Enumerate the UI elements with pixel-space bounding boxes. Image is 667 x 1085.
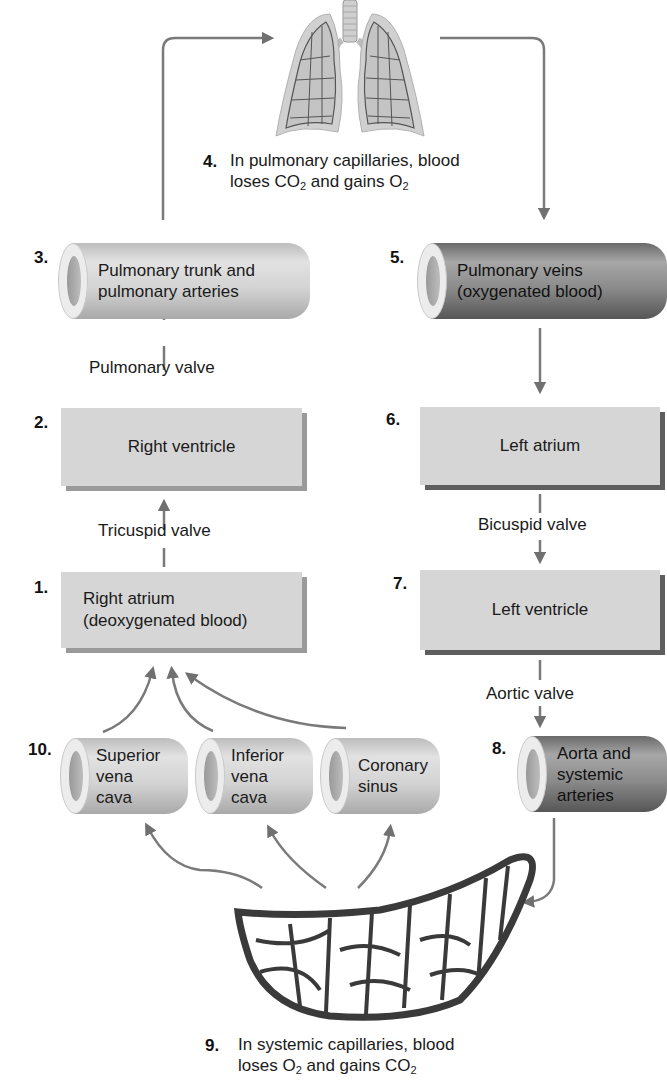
superior-vena-cava-label: Superiorvenacava — [96, 738, 160, 814]
step-6-number: 6. — [386, 410, 400, 430]
step-9-caption: In systemic capillaries, blood loses O2 … — [238, 1034, 454, 1076]
step-4-number: 4. — [203, 152, 217, 172]
step-4-caption-line2: loses CO2 and gains O2 — [230, 171, 460, 192]
aorta-vessel: Aorta andsystemicarteries — [517, 736, 667, 812]
step-8-number: 8. — [492, 739, 506, 759]
tricuspid-valve-label: Tricuspid valve — [98, 520, 211, 541]
aortic-valve-label: Aortic valve — [486, 683, 574, 704]
pulmonary-trunk-label: Pulmonary trunk andpulmonary arteries — [98, 243, 255, 319]
step-2-number: 2. — [34, 413, 48, 433]
inferior-vena-cava-label: Inferiorvenacava — [231, 738, 284, 814]
right-atrium-sublabel: (deoxygenated blood) — [83, 610, 247, 632]
step-3-number: 3. — [34, 248, 48, 268]
coronary-sinus-vessel: Coronarysinus — [320, 738, 440, 814]
step-9-number: 9. — [205, 1036, 219, 1056]
step-4-caption-line1: In pulmonary capillaries, blood — [230, 150, 460, 171]
step-7-number: 7. — [393, 574, 407, 594]
step-5-number: 5. — [390, 248, 404, 268]
arrow-to-lungs — [163, 38, 268, 220]
pulmonary-veins-label: Pulmonary veins(oxygenated blood) — [457, 243, 603, 319]
step-9-caption-line1: In systemic capillaries, blood — [238, 1034, 454, 1055]
step-10-number: 10. — [28, 740, 52, 760]
left-atrium-box: Left atrium — [420, 407, 660, 485]
aorta-label: Aorta andsystemicarteries — [557, 736, 631, 812]
pulmonary-valve-label: Pulmonary valve — [89, 357, 215, 378]
right-atrium-box: Right atrium(deoxygenated blood) — [61, 572, 302, 648]
step-1-number: 1. — [34, 578, 48, 598]
step-4-caption: In pulmonary capillaries, blood loses CO… — [230, 150, 460, 192]
right-ventricle-box: Right ventricle — [61, 408, 302, 486]
inferior-vena-cava-vessel: Inferiorvenacava — [195, 738, 313, 814]
pulmonary-trunk-vessel: Pulmonary trunk andpulmonary arteries — [58, 243, 310, 319]
bicuspid-valve-label: Bicuspid valve — [478, 514, 587, 535]
coronary-sinus-label: Coronarysinus — [358, 738, 428, 814]
capillary-bed-illustration — [238, 857, 533, 1018]
superior-vena-cava-vessel: Superiorvenacava — [60, 738, 188, 814]
lungs-illustration — [276, 0, 424, 136]
right-atrium-label: Right atrium — [83, 588, 247, 610]
pulmonary-veins-vessel: Pulmonary veins(oxygenated blood) — [417, 243, 667, 319]
step-9-caption-line2: loses O2 and gains CO2 — [238, 1055, 454, 1076]
left-ventricle-box: Left ventricle — [420, 570, 660, 650]
